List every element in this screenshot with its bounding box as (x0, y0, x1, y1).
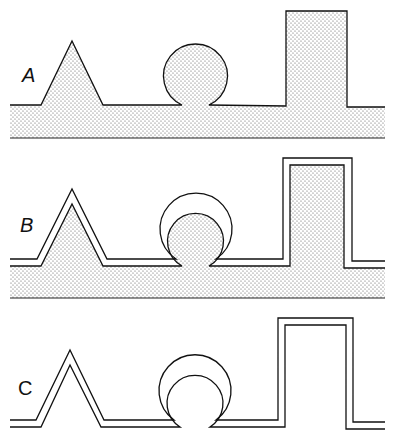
panel-c: C (10, 318, 385, 429)
panel-a-label: A (21, 64, 35, 86)
panel-b: B (10, 158, 385, 298)
panel-b-substrate (10, 165, 385, 298)
panel-a: A (10, 11, 385, 138)
panel-b-label: B (20, 214, 33, 236)
panel-c-outer-line (10, 318, 385, 422)
panel-c-label: C (18, 377, 32, 399)
panel-a-substrate (10, 11, 385, 138)
panel-c-inner-line (10, 325, 385, 429)
diagram: A B C (0, 0, 394, 439)
